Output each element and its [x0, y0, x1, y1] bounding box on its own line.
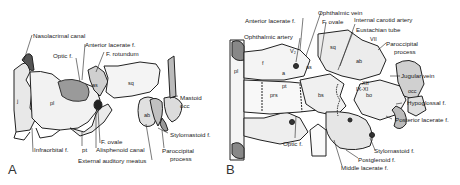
- bone-label-ix-xi: IX-XI: [356, 86, 368, 92]
- label-paroccipital-process-line1: Paroccipital: [386, 40, 418, 47]
- label-middle-lacerate-foramen: Middle lacerate f.: [341, 164, 388, 171]
- bone-label-prs: prs: [270, 92, 278, 98]
- label-postglenoid-foramen: Postglenoid f.: [358, 156, 396, 163]
- bone-label-pl: pl: [234, 68, 238, 74]
- bone-label-pl: pl: [50, 100, 54, 106]
- label-paroccipital-process-line2: process: [394, 48, 416, 55]
- label-occipital: occ: [180, 102, 190, 109]
- label-optic-foramen: Optic f.: [283, 140, 303, 147]
- label-jugular-vein: Jugular vein: [401, 72, 434, 79]
- label-foramen-rotundum: F. rotundum: [106, 50, 139, 57]
- bone-label-vii: VII: [370, 36, 377, 42]
- label-paroccipital-process-line2: process: [170, 155, 192, 162]
- label-eustachian-tube: Eustachian tube: [356, 26, 400, 33]
- label-foramen-ovale: F. ovale: [322, 18, 343, 25]
- label-pterygoid: pt: [82, 146, 87, 153]
- bone-label-sq: sq: [128, 80, 134, 86]
- panel-label-a: A: [8, 162, 17, 177]
- bone-label-pt: pt: [282, 83, 287, 89]
- bone-label-sq: sq: [330, 44, 336, 50]
- label-hypoglossal-foramen: Hypoglossal f.: [407, 99, 446, 106]
- label-external-auditory-meatus: External auditory meatus: [78, 157, 146, 164]
- label-ophthalmic-artery: Ophthalmic artery: [244, 33, 293, 40]
- bone-label-ab: ab: [144, 112, 150, 118]
- bone-label-as: as: [92, 82, 98, 88]
- bone-label-ab: ab: [356, 58, 362, 64]
- label-nasolacrimal-canal: Nasolacrimal canal: [33, 32, 85, 39]
- bone-label-as: as: [306, 64, 312, 70]
- label-posterior-lacerate-foramen: Posterior lacerate f.: [395, 116, 449, 123]
- bone-label-f: f: [262, 60, 264, 66]
- label-stylomastoid-foramen: Stylomastoid f.: [374, 147, 415, 154]
- label-stylomastoid-foramen: Stylomastoid f.: [170, 131, 211, 138]
- bone-label-a: a: [282, 70, 285, 76]
- label-anterior-lacerate-foramen: Anterior lacerate f.: [245, 17, 296, 24]
- bone-label-v2: V₂: [290, 48, 296, 54]
- label-infraorbital-foramen: Infraorbital f.: [34, 146, 68, 153]
- label-internal-carotid-artery: Internal carotid artery: [354, 16, 412, 23]
- label-ophthalmic-vein: Ophthalmic vein: [318, 9, 362, 16]
- panel-label-b: B: [226, 162, 235, 177]
- label-mastoid: Mastoid: [180, 94, 202, 101]
- label-optic-foramen: Optic f.: [53, 52, 73, 59]
- label-anterior-lacerate-foramen: Anterior lacerate f.: [85, 41, 136, 48]
- bone-label-j: j: [17, 98, 18, 104]
- bone-label-bs: bs: [318, 92, 324, 98]
- label-paroccipital-process-line1: Paroccipital: [162, 147, 194, 154]
- bone-label-occ: occ: [408, 88, 417, 94]
- bone-label-bo: bo: [366, 92, 372, 98]
- label-foramen-ovale: F. ovale: [101, 138, 122, 145]
- label-alisphenoid-canal: Alisphenoid canal: [96, 146, 145, 153]
